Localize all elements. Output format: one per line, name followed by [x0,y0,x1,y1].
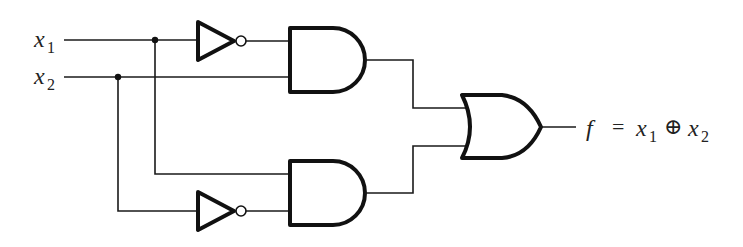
or-gate [462,95,541,158]
svg-text:1: 1 [649,128,657,145]
not-gate-bottom [198,192,246,230]
wire-and-top-to-or [365,60,468,108]
svg-text:⊕: ⊕ [664,114,682,139]
wire-x2-branch-to-not-bottom [118,77,197,211]
junction-dot-x1 [152,37,158,43]
svg-text:x: x [687,115,699,141]
not-gate-top [198,22,246,60]
input-label-x2: x 2 [33,63,55,93]
wire-x1-branch-to-and-bottom [155,40,289,174]
wire-and-bottom-to-or [365,146,468,193]
svg-text:x: x [635,115,647,141]
inversion-bubble-bottom [236,206,246,216]
svg-text:2: 2 [47,76,55,93]
and-gate-top [290,28,365,92]
and-gate-bottom [290,161,365,225]
svg-text:f: f [586,115,596,141]
svg-text:x: x [33,26,45,52]
inversion-bubble-top [236,36,246,46]
svg-text:2: 2 [701,128,709,145]
output-equation: f = x 1 ⊕ x 2 [586,114,709,145]
input-label-x1: x 1 [33,26,55,56]
svg-text:x: x [33,63,45,89]
svg-text:=: = [612,114,624,139]
svg-text:1: 1 [47,39,55,56]
xor-circuit-diagram: x 1 x 2 f = x 1 ⊕ x 2 [0,0,743,247]
junction-dot-x2 [115,74,121,80]
